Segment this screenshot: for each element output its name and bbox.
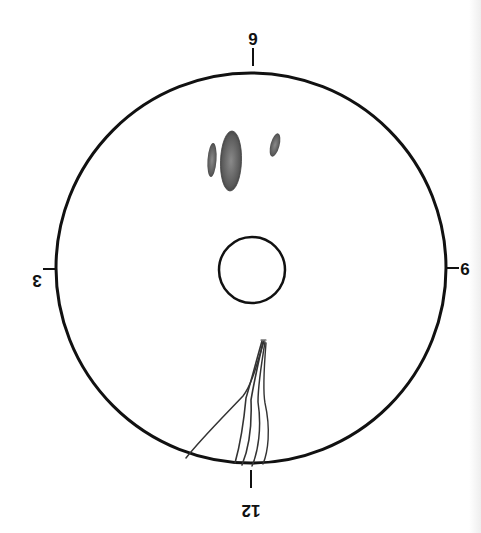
label-left: 3 [32,271,41,290]
clock-diagram: 9 6 12 3 [0,0,481,533]
inner-circle [219,237,285,303]
label-bottom: 12 [242,501,261,520]
strand-4 [263,343,268,464]
label-top: 9 [248,30,257,49]
lesion-large-center [219,131,242,192]
strand-long-diagonal [186,341,264,458]
label-right: 6 [460,260,469,279]
lesion-small-left [206,143,217,178]
lesion-small-right [268,132,283,158]
